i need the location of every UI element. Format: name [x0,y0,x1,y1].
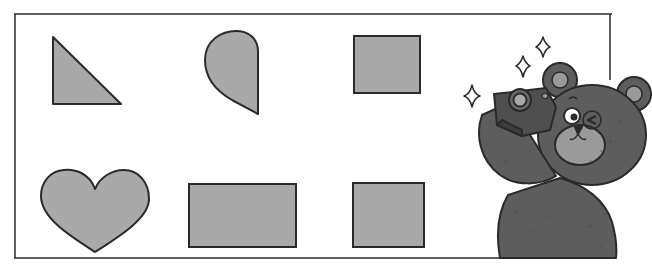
square-shape-bottom [353,183,424,247]
rectangle-shape [189,184,296,247]
worksheet-illustration [0,0,652,265]
right-triangle-shape [53,37,121,104]
teardrop-shape [205,31,258,114]
heart-shape [41,170,149,252]
square-shape-top [354,36,420,93]
bear-illustration [479,63,651,258]
